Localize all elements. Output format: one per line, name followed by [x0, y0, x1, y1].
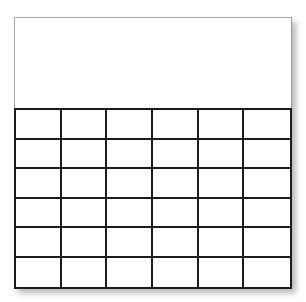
grid-cell — [16, 169, 62, 199]
grid-table — [14, 108, 292, 289]
grid-cell — [107, 199, 153, 229]
grid-cell — [16, 110, 62, 140]
grid-cell — [244, 199, 290, 229]
grid-cell — [107, 140, 153, 170]
grid-cell — [199, 110, 245, 140]
grid-cell — [16, 258, 62, 288]
grid-cell — [62, 169, 108, 199]
grid-cell — [62, 228, 108, 258]
grid-cell — [199, 228, 245, 258]
grid-cell — [62, 258, 108, 288]
grid-cell — [153, 199, 199, 229]
grid-cell — [62, 110, 108, 140]
grid-cell — [107, 169, 153, 199]
grid-cell — [107, 110, 153, 140]
grid-cell — [16, 228, 62, 258]
grid-cell — [244, 110, 290, 140]
grid-cell — [244, 258, 290, 288]
header-area — [15, 18, 291, 108]
grid-cell — [199, 199, 245, 229]
grid-cell — [62, 199, 108, 229]
grid-cell — [244, 228, 290, 258]
grid-cell — [244, 169, 290, 199]
grid-cell — [199, 169, 245, 199]
grid-cell — [16, 140, 62, 170]
grid-cell — [153, 110, 199, 140]
grid-cell — [153, 258, 199, 288]
grid-cell — [153, 140, 199, 170]
grid-cell — [16, 199, 62, 229]
grid-cell — [199, 258, 245, 288]
blank-grid-card — [14, 17, 292, 288]
grid-cell — [62, 140, 108, 170]
grid-cell — [107, 258, 153, 288]
grid-cell — [244, 140, 290, 170]
grid-cell — [199, 140, 245, 170]
grid-cell — [153, 169, 199, 199]
grid-cell — [107, 228, 153, 258]
grid-cell — [153, 228, 199, 258]
